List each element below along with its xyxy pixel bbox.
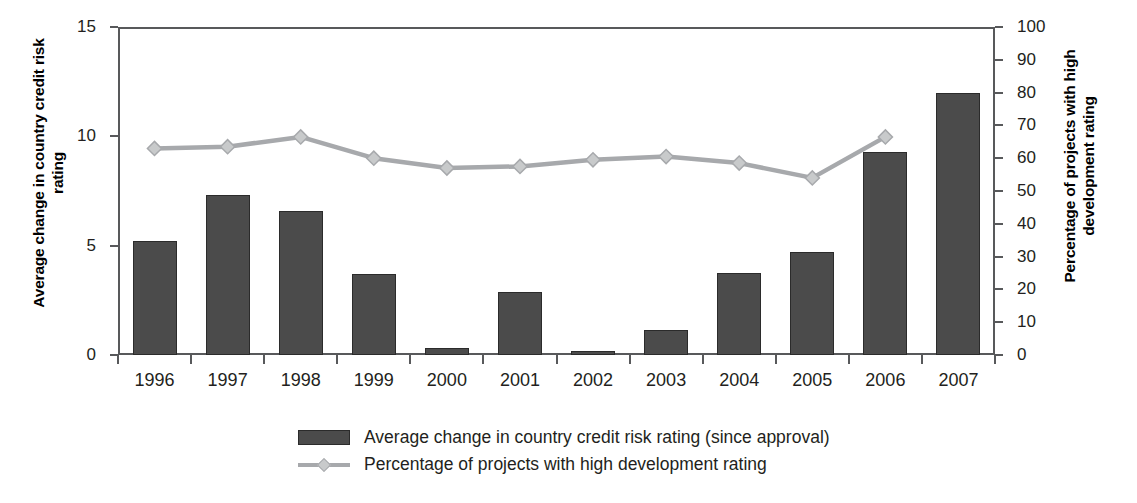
legend-bar-swatch-icon	[298, 430, 350, 445]
line-marker-1998	[294, 130, 308, 144]
legend-item-line: Percentage of projects with high develop…	[298, 451, 830, 478]
x-axis-tick	[117, 355, 119, 364]
x-axis-tick	[336, 355, 338, 364]
left-axis-tick-label: 10	[77, 126, 96, 146]
line-marker-1999	[367, 151, 381, 165]
right-axis-tick-label: 20	[1017, 279, 1036, 299]
right-axis-tick: 40	[995, 223, 1003, 225]
right-axis-tick: 100	[995, 26, 1003, 28]
right-axis-tick-label: 40	[1017, 214, 1036, 234]
x-axis-tick	[848, 355, 850, 364]
x-axis-tick	[263, 355, 265, 364]
right-axis-tick: 50	[995, 190, 1003, 192]
right-axis-tick: 60	[995, 157, 1003, 159]
x-axis-tick	[629, 355, 631, 364]
right-axis-tick-label: 10	[1017, 312, 1036, 332]
right-axis-tick-label: 60	[1017, 148, 1036, 168]
left-axis-tick: 5	[110, 245, 118, 247]
right-axis-tick: 10	[995, 321, 1003, 323]
left-axis-tick: 15	[110, 26, 118, 28]
line-marker-2003	[659, 150, 673, 164]
right-axis-title: Percentage of projects with high develop…	[1060, 31, 1104, 301]
legend-item-bar-label: Average change in country credit risk ra…	[364, 427, 830, 448]
line-marker-2004	[732, 156, 746, 170]
left-axis-tick-label: 5	[87, 236, 96, 256]
left-axis-tick-label: 0	[87, 345, 96, 365]
x-axis-tick	[994, 355, 996, 364]
line-marker-1997	[221, 140, 235, 154]
x-axis-tick	[482, 355, 484, 364]
chart-legend: Average change in country credit risk ra…	[298, 424, 830, 478]
line-marker-1996	[147, 141, 161, 155]
x-axis-label-2007: 2007	[913, 370, 1003, 391]
left-axis-tick-label: 15	[77, 17, 96, 37]
right-axis-tick: 80	[995, 92, 1003, 94]
right-axis-tick: 0	[995, 354, 1003, 356]
right-axis-tick-label: 30	[1017, 247, 1036, 267]
left-axis-tick: 10	[110, 135, 118, 137]
x-axis-tick	[190, 355, 192, 364]
chart-figure: Average change in country credit risk ra…	[0, 0, 1137, 503]
right-axis-tick-label: 90	[1017, 50, 1036, 70]
right-axis-tick-label: 80	[1017, 83, 1036, 103]
legend-line-swatch-icon	[298, 457, 350, 472]
x-axis-tick	[921, 355, 923, 364]
x-axis-tick	[556, 355, 558, 364]
line-marker-2000	[440, 161, 454, 175]
legend-item-bar: Average change in country credit risk ra…	[298, 424, 830, 451]
left-axis-title: Average change in country credit risk ra…	[29, 38, 73, 308]
right-axis-tick: 20	[995, 288, 1003, 290]
x-axis-tick	[409, 355, 411, 364]
right-axis-tick-label: 70	[1017, 115, 1036, 135]
line-marker-2001	[513, 159, 527, 173]
x-axis-tick	[775, 355, 777, 364]
right-axis-tick: 90	[995, 59, 1003, 61]
right-axis-tick: 30	[995, 256, 1003, 258]
plot-area: 151050 1009080706050403020100	[118, 27, 995, 355]
right-axis-tick-label: 0	[1017, 345, 1026, 365]
line-series	[118, 27, 995, 355]
right-axis-tick: 70	[995, 124, 1003, 126]
right-axis-tick-label: 50	[1017, 181, 1036, 201]
legend-item-line-label: Percentage of projects with high develop…	[364, 454, 767, 475]
x-axis-tick	[702, 355, 704, 364]
right-axis-tick-label: 100	[1017, 17, 1045, 37]
line-marker-2002	[586, 153, 600, 167]
